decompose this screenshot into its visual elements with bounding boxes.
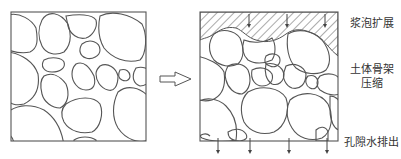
label-mid-line2: 压缩 [344,77,400,91]
label-pore-water-discharge: 孔隙水排出 [342,136,401,150]
particles-before [8,13,150,146]
hollow-right-arrow-icon [160,72,191,86]
panel-before-frame [11,12,146,141]
slurry-bubble-region [200,12,338,56]
panel-after [194,12,340,152]
panel-before [8,12,150,146]
label-mid-line1: 土体骨架 [344,63,400,77]
particles-after [194,31,340,142]
label-slurry-bubble-expansion: 浆泡扩展 [344,17,400,31]
label-soil-skeleton-compression: 土体骨架 压缩 [344,63,400,91]
grouting-compaction-diagram [0,0,401,159]
